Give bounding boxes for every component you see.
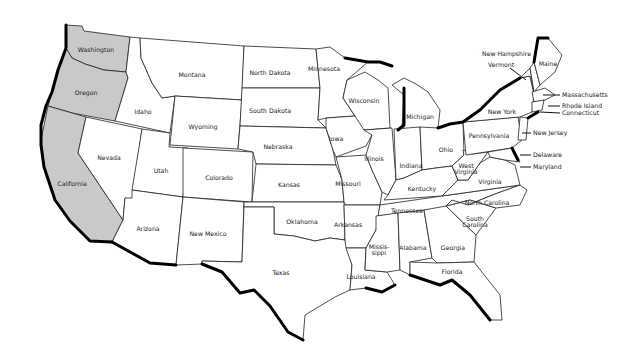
label-iowa: Iowa (329, 136, 343, 142)
label-north-dakota: North Dakota (249, 70, 290, 76)
label-wisconsin: Wisconsin (349, 98, 380, 104)
label-missouri: Missouri (335, 181, 360, 187)
label-maine: Maine (539, 61, 558, 67)
state-michigan[interactable] (392, 78, 440, 132)
label-nevada: Nevada (97, 155, 121, 161)
label-idaho: Idaho (134, 109, 151, 115)
label-minnesota: Minnesota (308, 66, 340, 72)
label-indiana: Indiana (400, 163, 423, 169)
label-tennessee: Tennessee (391, 208, 423, 214)
label-pennsylvania: Pennsylvania (469, 133, 510, 139)
state-new-jersey[interactable] (518, 117, 528, 140)
label-new-jersey: New Jersey (533, 130, 567, 136)
label-florida: Florida (441, 269, 462, 275)
label-michigan: Michigan (406, 114, 434, 120)
label-oklahoma: Oklahoma (286, 219, 318, 225)
label-washington: Washington (78, 47, 114, 53)
label-kentucky: Kentucky (408, 186, 436, 192)
state-connecticut[interactable] (532, 100, 544, 112)
label-delaware: Delaware (533, 152, 562, 158)
label-virginia: Virginia (478, 179, 501, 185)
label-new-york: New York (488, 109, 516, 115)
label-oregon: Oregon (75, 90, 98, 96)
label-north-carolina: North Carolina (465, 200, 510, 206)
label-wyoming: Wyoming (188, 124, 217, 130)
label-mississippi: Missis-sippi (369, 244, 390, 256)
label-georgia: Georgia (441, 245, 465, 251)
label-illinois: Illinois (364, 156, 384, 162)
label-ohio: Ohio (439, 147, 453, 153)
label-west-virginia: WestVirginia (454, 163, 477, 175)
label-south-carolina: SouthCarolina (462, 216, 487, 228)
lake-michigan-shoreline (398, 88, 404, 130)
us-map (0, 0, 630, 357)
label-montana: Montana (179, 72, 206, 78)
label-south-dakota: South Dakota (249, 108, 291, 114)
label-arkansas: Arkansas (334, 222, 362, 228)
label-texas: Texas (272, 270, 289, 276)
label-louisiana: Louisiana (346, 274, 375, 280)
label-connecticut: Connecticut (562, 110, 599, 116)
label-maryland: Maryland (533, 164, 562, 170)
leader-connecticut (540, 112, 560, 113)
label-massachusetts: Massachusetts (562, 92, 608, 98)
label-kansas: Kansas (278, 182, 300, 188)
label-nebraska: Nebraska (263, 144, 292, 150)
label-california: California (57, 181, 86, 187)
label-new-hampshire: New Hampshire (482, 51, 531, 57)
label-utah: Utah (154, 168, 169, 174)
label-arizona: Arizona (136, 226, 159, 232)
label-colorado: Colorado (205, 175, 233, 181)
label-vermont: Vermont (488, 62, 514, 68)
label-new-mexico: New Mexico (189, 231, 226, 237)
label-alabama: Alabama (399, 245, 426, 251)
